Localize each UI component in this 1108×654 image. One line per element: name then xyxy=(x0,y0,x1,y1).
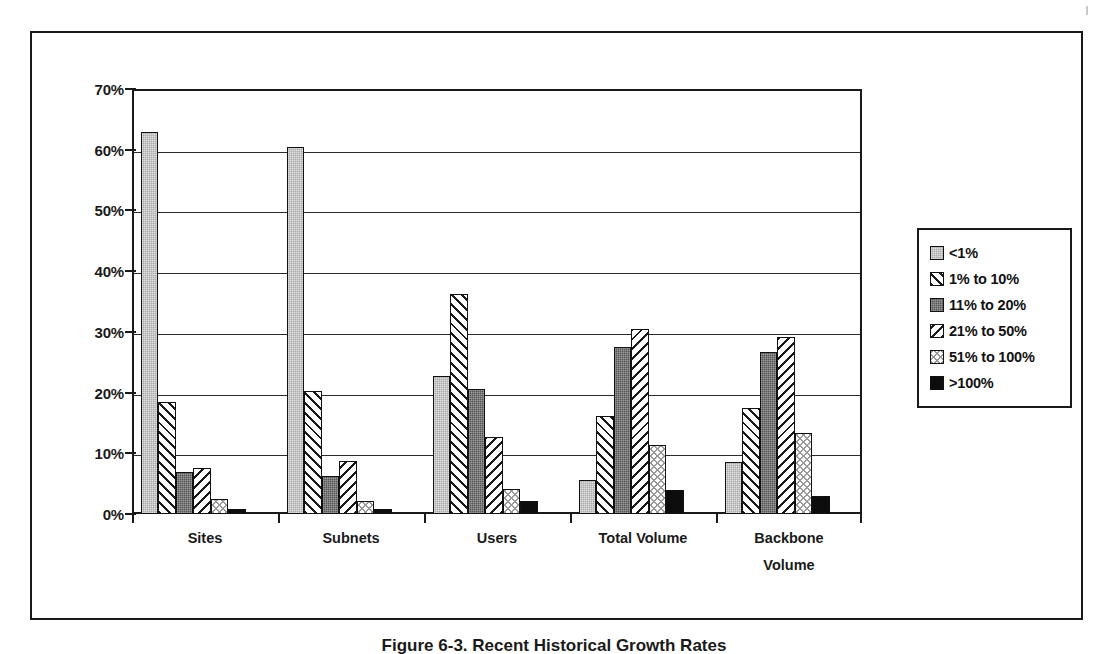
legend-item-label: <1% xyxy=(949,245,978,261)
bar-group xyxy=(579,89,684,514)
bar-series-layer xyxy=(134,89,860,514)
bar-group xyxy=(433,89,538,514)
legend-item-label: 21% to 50% xyxy=(949,323,1027,339)
bar xyxy=(649,445,667,514)
x-axis-label-line: Users xyxy=(477,525,517,552)
legend-item[interactable]: 21% to 50% xyxy=(930,318,1060,344)
y-axis-labels: 70%60%50%40%30%20%10%0% xyxy=(72,89,124,514)
bar xyxy=(193,468,211,514)
y-axis-tick-label: 70% xyxy=(95,81,124,98)
bar xyxy=(468,389,486,514)
bar xyxy=(596,416,614,514)
figure-frame: 70%60%50%40%30%20%10%0% SitesSubnetsUser… xyxy=(30,31,1083,620)
bar xyxy=(211,499,229,514)
scan-artifact xyxy=(1086,6,1088,15)
y-axis-tick-label: 30% xyxy=(95,323,124,340)
bar xyxy=(760,352,778,514)
legend-item-label: 1% to 10% xyxy=(949,271,1019,287)
x-axis-label-line: Backbone xyxy=(754,525,823,552)
x-axis-tick-mark xyxy=(278,514,280,523)
x-axis-label: Subnets xyxy=(322,525,379,552)
bar xyxy=(176,472,194,515)
legend-item[interactable]: 11% to 20% xyxy=(930,292,1060,318)
bar xyxy=(339,461,357,514)
backward-diagonal-swatch-icon xyxy=(930,324,944,338)
x-axis-tick-mark xyxy=(716,514,718,523)
y-axis-tick-label: 0% xyxy=(103,506,124,523)
bar xyxy=(742,408,760,514)
x-axis-tick-mark xyxy=(860,514,862,523)
x-axis-tick-marks xyxy=(132,514,862,523)
bar xyxy=(795,433,813,514)
legend-item-label: 51% to 100% xyxy=(949,349,1035,365)
x-axis-tick-mark xyxy=(570,514,572,523)
bar xyxy=(631,329,649,514)
bar xyxy=(287,147,305,514)
bar xyxy=(158,402,176,514)
light-gray-swatch-icon xyxy=(930,246,944,260)
x-axis-label-line: Volume xyxy=(754,552,823,579)
bar xyxy=(614,347,632,514)
bar xyxy=(450,294,468,514)
bar-group xyxy=(725,89,830,514)
legend-item[interactable]: >100% xyxy=(930,370,1060,396)
x-axis-label-line: Subnets xyxy=(322,525,379,552)
x-axis-tick-mark xyxy=(132,514,134,523)
bar xyxy=(357,501,375,514)
legend-item[interactable]: <1% xyxy=(930,240,1060,266)
forward-diagonal-swatch-icon xyxy=(930,272,944,286)
legend-item-label: >100% xyxy=(949,375,994,391)
figure-caption: Figure 6-3. Recent Historical Growth Rat… xyxy=(0,636,1108,654)
bar xyxy=(433,376,451,514)
bar xyxy=(503,489,521,515)
y-axis-tick-label: 50% xyxy=(95,202,124,219)
legend: <1%1% to 10%11% to 20%21% to 50%51% to 1… xyxy=(917,228,1072,408)
bar xyxy=(322,476,340,514)
x-axis-label-line: Total Volume xyxy=(599,525,688,552)
bar xyxy=(812,496,830,514)
x-axis-label: BackboneVolume xyxy=(754,525,823,579)
x-axis-label: Users xyxy=(477,525,517,552)
bar xyxy=(485,437,503,514)
x-axis-label-line: Sites xyxy=(188,525,223,552)
bar xyxy=(579,480,597,514)
legend-item[interactable]: 1% to 10% xyxy=(930,266,1060,292)
bar xyxy=(520,501,538,514)
y-axis-tick-label: 20% xyxy=(95,384,124,401)
legend-item-label: 11% to 20% xyxy=(949,297,1026,313)
bar xyxy=(304,391,322,514)
x-axis-label: Sites xyxy=(188,525,223,552)
bar xyxy=(725,462,743,514)
bar xyxy=(777,337,795,514)
x-axis-tick-mark xyxy=(424,514,426,523)
y-axis-tick-label: 40% xyxy=(95,263,124,280)
bar-group xyxy=(287,89,392,514)
cross-hatch-swatch-icon xyxy=(930,350,944,364)
y-axis-tick-label: 10% xyxy=(95,445,124,462)
bar xyxy=(141,132,159,515)
x-axis-label: Total Volume xyxy=(599,525,688,552)
black-swatch-icon xyxy=(930,376,944,390)
bar-group xyxy=(141,89,246,514)
x-axis-labels: SitesSubnetsUsersTotal VolumeBackboneVol… xyxy=(132,525,862,595)
legend-item[interactable]: 51% to 100% xyxy=(930,344,1060,370)
dark-gray-swatch-icon xyxy=(930,298,944,312)
bar xyxy=(666,490,684,514)
y-axis-tick-label: 60% xyxy=(95,141,124,158)
